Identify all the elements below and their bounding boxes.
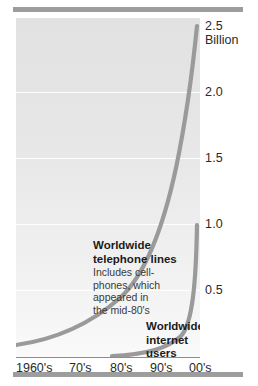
chart-figure: Worldwide telephone lines Includes cell-… [0, 0, 258, 386]
annotation-internet-title-line3: users [146, 347, 200, 357]
annotation-internet-users: Worldwide internet users [146, 320, 200, 357]
top-divider-rule [13, 7, 243, 12]
annotation-telephone-title-line1: Worldwide [93, 239, 177, 253]
annotation-telephone-sub-line3: appeared in [93, 291, 177, 304]
plot-area: Worldwide telephone lines Includes cell-… [16, 18, 200, 357]
annotation-internet-title-line2: internet [146, 334, 200, 348]
annotation-internet-title-line1: Worldwide [146, 320, 200, 334]
y-axis-unit-label: Billion [205, 33, 238, 47]
annotation-telephone-sub-line1: Includes cell- [93, 266, 177, 279]
annotation-telephone-sub-line2: phones, which [93, 279, 177, 292]
y-tick-label-1-0: 1.0 [205, 217, 223, 231]
x-axis-line [16, 357, 200, 358]
y-tick-label-0-5: 0.5 [205, 283, 223, 297]
y-tick-label-1-5: 1.5 [205, 151, 223, 165]
annotation-telephone-sub-line4: the mid-80's [93, 304, 177, 317]
y-tick-label-2-5: 2.5 [205, 19, 223, 33]
annotation-telephone-title-line2: telephone lines [93, 253, 177, 267]
bottom-divider-rule [13, 372, 243, 377]
y-tick-label-2-0: 2.0 [205, 85, 223, 99]
annotation-telephone-lines: Worldwide telephone lines Includes cell-… [93, 239, 177, 316]
